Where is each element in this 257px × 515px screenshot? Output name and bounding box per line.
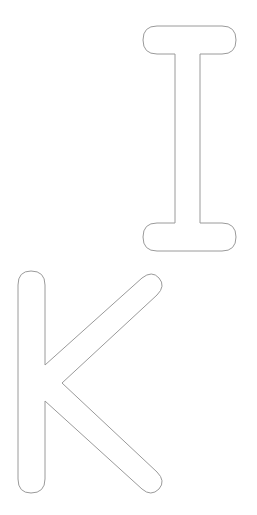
letter-i-outline — [143, 26, 236, 251]
letter-k-outline — [18, 271, 162, 493]
letter-outlines — [0, 0, 257, 515]
